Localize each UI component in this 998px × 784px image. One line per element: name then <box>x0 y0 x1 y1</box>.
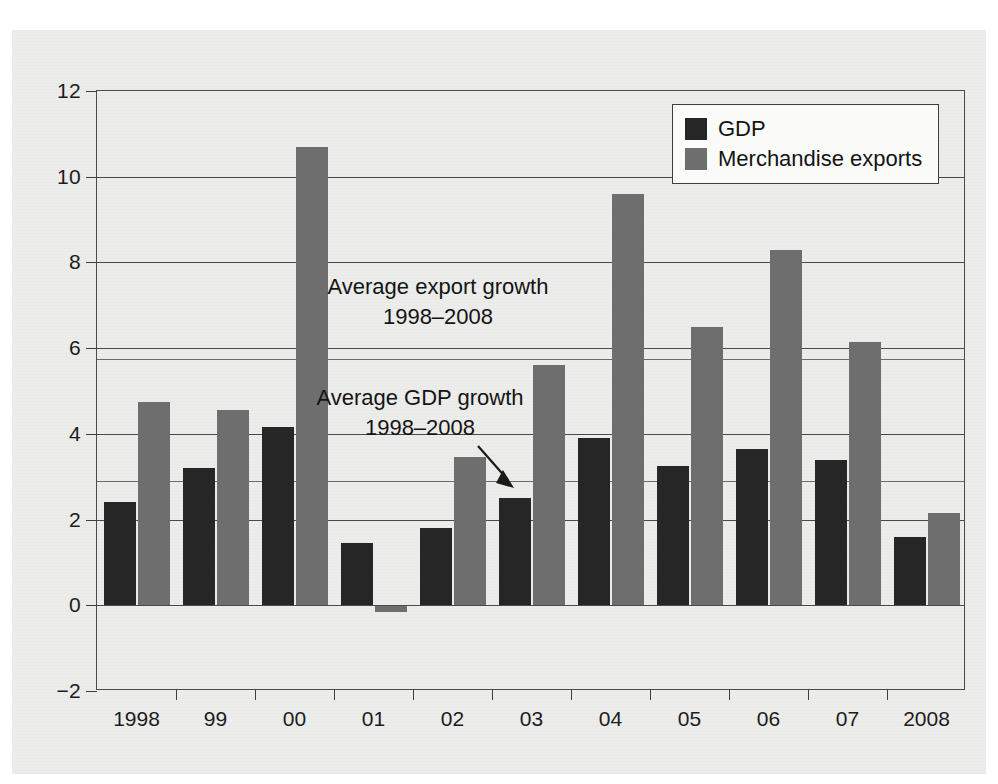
bar-gdp-00 <box>262 427 294 605</box>
x-tick-2008 <box>887 689 888 700</box>
x-tick-label-05: 05 <box>678 707 701 731</box>
bar-merchandise-exports-99 <box>217 410 249 605</box>
bar-merchandise-exports-05 <box>691 327 723 606</box>
y-tick-label-10: 10 <box>57 165 81 189</box>
x-tick-03 <box>492 689 493 700</box>
y-tick-12 <box>86 91 97 92</box>
bar-merchandise-exports-07 <box>849 342 881 606</box>
x-tick-label-07: 07 <box>836 707 859 731</box>
bar-merchandise-exports-00 <box>296 147 328 606</box>
y-tick-0 <box>86 605 97 606</box>
y-tick-label-8: 8 <box>69 250 81 274</box>
y-tick-label-2: 2 <box>69 508 81 532</box>
x-tick-label-03: 03 <box>520 707 543 731</box>
bar-merchandise-exports-04 <box>612 194 644 605</box>
bar-gdp-2008 <box>894 537 926 606</box>
y-tick-6 <box>86 348 97 349</box>
average-export-growth-annotation: Average export growth 1998–2008 <box>328 272 549 333</box>
x-tick-06 <box>729 689 730 700</box>
x-tick-00 <box>255 689 256 700</box>
annotation-arrow-icon <box>472 440 532 500</box>
x-tick-label-02: 02 <box>441 707 464 731</box>
reference-line-average-export-growth <box>97 359 964 360</box>
average-gdp-growth-annotation: Average GDP growth 1998–2008 <box>316 383 523 444</box>
y-tick--2 <box>86 691 97 692</box>
legend-item-merchandise-exports: Merchandise exports <box>685 144 922 174</box>
y-tick-label--2: −2 <box>56 679 81 703</box>
x-tick-05 <box>650 689 651 700</box>
gridline-y-6 <box>97 348 964 349</box>
legend-item-gdp: GDP <box>685 114 922 144</box>
bar-gdp-04 <box>578 438 610 605</box>
x-tick-01 <box>334 689 335 700</box>
legend-label-merchandise-exports: Merchandise exports <box>718 146 922 172</box>
y-tick-label-6: 6 <box>69 336 81 360</box>
bar-gdp-01 <box>341 543 373 605</box>
x-tick-label-01: 01 <box>362 707 385 731</box>
y-tick-2 <box>86 520 97 521</box>
bar-merchandise-exports-06 <box>770 250 802 606</box>
x-tick-04 <box>571 689 572 700</box>
bar-gdp-03 <box>499 498 531 605</box>
y-tick-label-0: 0 <box>69 593 81 617</box>
y-tick-4 <box>86 434 97 435</box>
bar-gdp-05 <box>657 466 689 605</box>
chart-legend: GDP Merchandise exports <box>672 104 939 184</box>
chart-figure: −202468101219989900010203040506072008 GD… <box>0 0 998 784</box>
x-tick-label-1998: 1998 <box>113 707 160 731</box>
x-tick-label-00: 00 <box>283 707 306 731</box>
legend-label-gdp: GDP <box>718 116 766 142</box>
y-tick-label-4: 4 <box>69 422 81 446</box>
bar-gdp-99 <box>183 468 215 605</box>
x-tick-label-04: 04 <box>599 707 622 731</box>
legend-swatch-gdp <box>685 118 707 140</box>
average-export-growth-annotation-line1: Average export growth <box>328 272 549 302</box>
bar-gdp-06 <box>736 449 768 605</box>
y-tick-label-12: 12 <box>57 79 81 103</box>
bar-gdp-07 <box>815 460 847 606</box>
average-gdp-growth-annotation-line1: Average GDP growth <box>316 383 523 413</box>
bar-merchandise-exports-03 <box>533 365 565 605</box>
x-tick-label-99: 99 <box>204 707 227 731</box>
y-tick-8 <box>86 262 97 263</box>
legend-swatch-merchandise-exports <box>685 148 707 170</box>
bar-merchandise-exports-2008 <box>928 513 960 605</box>
x-tick-02 <box>413 689 414 700</box>
x-tick-label-2008: 2008 <box>903 707 950 731</box>
bar-gdp-02 <box>420 528 452 605</box>
x-tick-07 <box>808 689 809 700</box>
bar-gdp-1998 <box>104 502 136 605</box>
x-tick-99 <box>176 689 177 700</box>
gridline-y-8 <box>97 262 964 263</box>
bar-merchandise-exports-1998 <box>138 402 170 606</box>
average-export-growth-annotation-line2: 1998–2008 <box>328 302 549 332</box>
x-tick-label-06: 06 <box>757 707 780 731</box>
y-tick-10 <box>86 177 97 178</box>
zero-baseline <box>97 605 964 606</box>
